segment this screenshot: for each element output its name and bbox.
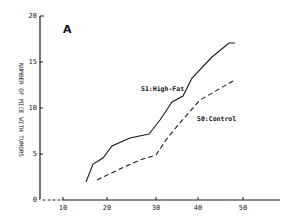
line-chart: 0 5 10 15 20 10 20 30 40 50 NUMBER OF MI… <box>0 0 291 224</box>
x-tick-label: 50 <box>239 204 247 212</box>
y-ticks: 0 5 10 15 20 <box>29 12 44 204</box>
y-tick-label: 20 <box>29 12 37 20</box>
y-tick-label: 5 <box>33 150 37 158</box>
series-label-high-fat: S1:High-Fat <box>141 85 184 93</box>
y-tick-label: 10 <box>29 104 37 112</box>
x-ticks: 10 20 30 40 50 <box>59 197 247 212</box>
panel-label: A <box>63 23 72 36</box>
y-axis-label: NUMBER OF MICE WITH TUMORS <box>18 63 25 157</box>
y-tick-label: 15 <box>29 58 37 66</box>
x-tick-label: 20 <box>103 204 111 212</box>
series-high-fat-line <box>86 43 235 182</box>
series-label-control: S0:Control <box>197 115 236 123</box>
y-tick-label: 0 <box>33 196 37 204</box>
x-tick-label: 10 <box>59 204 67 212</box>
x-tick-label: 40 <box>194 204 202 212</box>
series-control-line <box>97 81 233 180</box>
x-tick-label: 30 <box>152 204 160 212</box>
